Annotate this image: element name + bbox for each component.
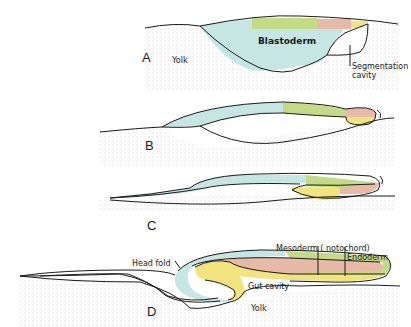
yolk-label-a: Yolk: [171, 56, 188, 65]
panel-a: A Yolk Blastoderm Segmentation cavity: [142, 16, 408, 90]
panel-label-b: B: [145, 138, 154, 153]
endoderm-label: Endoderm: [347, 253, 388, 262]
blastoderm-label: Blastoderm: [258, 36, 316, 46]
gut-cavity-label: Gut cavity: [248, 282, 289, 291]
ectoderm-b: [162, 102, 283, 127]
panel-c: C: [100, 173, 395, 233]
notochord-region-a: [317, 19, 351, 29]
panel-label-a: A: [142, 50, 151, 65]
segmentation-cavity-label-2: cavity: [352, 71, 376, 80]
head-fold-label: Head fold: [132, 259, 170, 268]
panel-label-d: D: [147, 304, 156, 319]
panel-d: D Head fold Mesoderm ( notochord) Endode…: [18, 244, 400, 327]
segmentation-cavity-label-1: Segmentation: [352, 62, 408, 71]
mesoderm-notochord-label: Mesoderm ( notochord): [276, 244, 370, 253]
embryo-development-diagram: A Yolk Blastoderm Segmentation cavity B …: [0, 0, 411, 327]
panel-label-c: C: [147, 218, 156, 233]
yolk-label-d: Yolk: [250, 304, 267, 313]
panel-b: B: [100, 102, 394, 165]
mesoderm-region-a: [252, 18, 317, 29]
